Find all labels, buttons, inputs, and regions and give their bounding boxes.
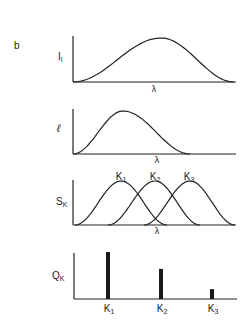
bar-k3 (210, 289, 214, 299)
curve-label-k1: K1 (116, 171, 127, 183)
curve-label-k3: K3 (184, 171, 195, 183)
panel4-ylabel: QK (52, 270, 65, 282)
sensitivity-curve-k3 (144, 181, 235, 225)
panel1-intensity-curve (73, 38, 234, 82)
panel-ell: ℓ λ (56, 109, 236, 165)
panel2-ell-curve (73, 111, 190, 154)
bar-k1 (106, 252, 110, 299)
panel3-ylabel: SK (56, 196, 68, 208)
panel1-xlabel: λ (152, 84, 157, 94)
panel1-ylabel: II (58, 51, 63, 63)
panel2-ylabel: ℓ (56, 122, 61, 134)
panel-sensitivities: SK K1 K2 K3 λ (56, 171, 236, 236)
panel-responses: QK K1 K2 K3 (52, 252, 237, 315)
tick-label-k1: K1 (104, 303, 115, 315)
sensitivity-curve-k2 (108, 181, 200, 225)
tick-label-k3: K3 (208, 303, 219, 315)
sensitivity-curve-k1 (75, 181, 167, 225)
panel-intensity: II λ (58, 36, 236, 94)
bar-k2 (159, 269, 163, 299)
panel2-xlabel: λ (155, 155, 160, 165)
panel-letter: b (14, 40, 20, 51)
panel3-xlabel: λ (155, 226, 160, 236)
tick-label-k2: K2 (157, 303, 168, 315)
curve-label-k2: K2 (150, 171, 161, 183)
figure-canvas: b II λ ℓ λ SK K1 K2 K3 λ QK K1 K2 (0, 0, 246, 324)
